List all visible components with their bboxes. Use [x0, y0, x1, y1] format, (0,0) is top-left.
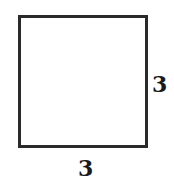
side-length-label-bottom: 3 — [78, 157, 93, 179]
square-shape — [18, 15, 148, 148]
side-length-label-right: 3 — [152, 73, 167, 95]
